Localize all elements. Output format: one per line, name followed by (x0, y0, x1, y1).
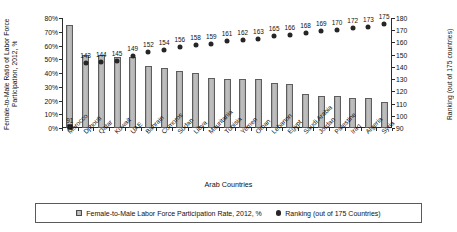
ranking-marker (335, 28, 340, 33)
y2-tick (392, 91, 395, 92)
y2-tick (392, 18, 395, 19)
legend-label-bars: Female-to-Male Labor Force Participation… (86, 210, 261, 217)
ranking-marker (225, 39, 230, 44)
y-tick-label: 10% (44, 111, 58, 118)
y-tick-label: 70% (44, 28, 58, 35)
ranking-value-label: 163 (253, 28, 264, 35)
ranking-marker (382, 22, 387, 27)
ranking-marker (177, 45, 182, 50)
bar (208, 78, 215, 128)
chart-legend: Female-to-Male Labor Force Participation… (35, 203, 422, 223)
ranking-value-label: 165 (269, 25, 280, 32)
ranking-marker (115, 58, 120, 63)
ranking-marker (366, 24, 371, 29)
ranking-marker (146, 50, 151, 55)
ranking-value-label: 162 (237, 29, 248, 36)
y-tick-label: 60% (44, 42, 58, 49)
y-tick-label: 80% (44, 15, 58, 22)
ranking-value-label: 156 (175, 36, 186, 43)
ranking-marker (287, 33, 292, 38)
bar (271, 83, 278, 128)
y2-tick (392, 42, 395, 43)
y-tick-label: 20% (44, 97, 58, 104)
legend-swatch-icon (76, 210, 82, 216)
y2-tick-label: 160 (396, 39, 407, 46)
y2-tick-label: 180 (396, 15, 407, 22)
y-axis-title-left-text: Female-to-Male Ratio of Labor Force Part… (3, 10, 20, 138)
ranking-marker (272, 34, 277, 39)
y-axis-title-right-text: Ranking (out of 175 countries) (446, 28, 455, 119)
y2-tick-label: 90 (396, 125, 404, 132)
y2-tick (392, 116, 395, 117)
ranking-marker (83, 61, 88, 66)
ranking-value-label: 166 (285, 24, 296, 31)
ranking-value-label: 175 (379, 13, 390, 20)
y2-tick (392, 30, 395, 31)
ranking-value-label: 143 (80, 52, 91, 59)
y2-tick-label: 150 (396, 51, 407, 58)
y2-tick-label: 130 (396, 76, 407, 83)
ranking-value-label: 161 (222, 30, 233, 37)
ranking-marker (209, 41, 214, 46)
y2-tick (392, 104, 395, 105)
ranking-marker (99, 60, 104, 65)
ranking-value-label: 172 (347, 17, 358, 24)
ranking-value-label: 154 (159, 39, 170, 46)
ranking-value-label: 158 (190, 34, 201, 41)
ranking-marker (350, 25, 355, 30)
y2-tick (392, 79, 395, 80)
y2-tick-label: 100 (396, 112, 407, 119)
ranking-value-label: 169 (316, 20, 327, 27)
ranking-value-label: 144 (96, 51, 107, 58)
y-axis-title-right: Ranking (out of 175 countries) (444, 10, 456, 138)
chart-container: Female-to-Male Ratio of Labor Force Part… (0, 0, 457, 232)
legend-item-bars: Female-to-Male Labor Force Participation… (76, 210, 261, 217)
ranking-marker (162, 47, 167, 52)
y-tick-label: 40% (44, 70, 58, 77)
y2-tick-label: 120 (396, 88, 407, 95)
ranking-value-label: 168 (300, 22, 311, 29)
bar (66, 25, 73, 128)
y-tick-label: 50% (44, 56, 58, 63)
legend-dot-icon (276, 210, 282, 216)
x-tick (392, 128, 393, 131)
ranking-value-label: 173 (363, 16, 374, 23)
ranking-marker (303, 30, 308, 35)
legend-item-ranking: Ranking (out of 175 Countries) (276, 210, 381, 217)
ranking-marker (256, 36, 261, 41)
ranking-marker (319, 29, 324, 34)
y-tick-label: 0% (48, 125, 58, 132)
bar (129, 57, 136, 129)
ranking-value-label: 149 (127, 45, 138, 52)
ranking-marker (193, 42, 198, 47)
ranking-value-label: 145 (112, 50, 123, 57)
x-axis-category-labels: MoroccoDjiboutiQatarKuwaitUAEBahrainComo… (62, 130, 392, 178)
y2-tick-label: 140 (396, 63, 407, 70)
y2-tick (392, 67, 395, 68)
ranking-value-label: 170 (332, 19, 343, 26)
y2-tick-label: 110 (396, 100, 407, 107)
bar (114, 57, 121, 129)
y2-tick (392, 55, 395, 56)
legend-label-ranking: Ranking (out of 175 Countries) (285, 210, 380, 217)
y2-tick-label: 170 (396, 27, 407, 34)
bar (145, 66, 152, 128)
x-axis-title: Arab Countries (0, 180, 457, 189)
ranking-value-label: 152 (143, 41, 154, 48)
ranking-value-label: 159 (206, 33, 217, 40)
ranking-marker (130, 53, 135, 58)
ranking-marker (240, 38, 245, 43)
y-tick-label: 30% (44, 83, 58, 90)
y-axis-title-left: Female-to-Male Ratio of Labor Force Part… (2, 10, 20, 138)
